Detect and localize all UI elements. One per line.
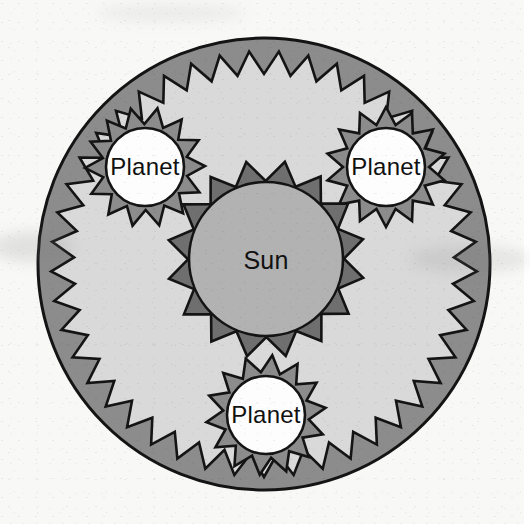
- planet-upper-right-label: Planet: [351, 153, 420, 180]
- planet-bottom-label: Planet: [231, 401, 300, 428]
- sun-label: Sun: [243, 246, 288, 274]
- planet-upper-left-label: Planet: [110, 153, 179, 180]
